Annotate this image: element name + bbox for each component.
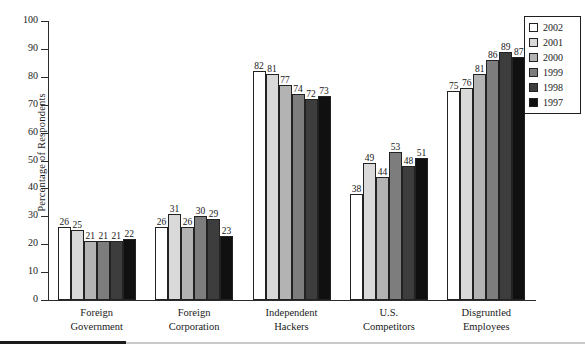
bar-2002-u-s-competitors[interactable]: 38 (350, 194, 363, 300)
bar-1998-disgruntled-employees[interactable]: 89 (499, 52, 512, 300)
bar-1999-disgruntled-employees[interactable]: 86 (486, 60, 499, 300)
bar-value-label: 87 (514, 47, 524, 57)
bar-1997-foreign-corporation[interactable]: 23 (220, 236, 233, 300)
y-tick-50: 50 (41, 161, 48, 162)
bar-1998-foreign-government[interactable]: 21 (110, 241, 123, 300)
bar-1999-foreign-government[interactable]: 21 (97, 241, 110, 300)
y-tick-label: 60 (28, 126, 38, 137)
y-tick-100: 100 (41, 21, 48, 22)
y-tick-label: 40 (28, 181, 38, 192)
legend-swatch-icon (529, 98, 538, 107)
bar-2000-foreign-government[interactable]: 21 (84, 241, 97, 300)
bar-value-label: 21 (85, 231, 95, 241)
bar-2001-u-s-competitors[interactable]: 49 (363, 163, 376, 300)
bar-2001-disgruntled-employees[interactable]: 76 (460, 88, 473, 300)
footer-rule-dark (0, 341, 126, 344)
bar-2001-independent-hackers[interactable]: 81 (266, 74, 279, 300)
category-label-line: U.S. (340, 306, 437, 320)
bar-2001-foreign-government[interactable]: 25 (71, 230, 84, 300)
bar-1998-foreign-corporation[interactable]: 29 (207, 219, 220, 300)
bar-chart: Percentage of Respondents 10090807060504… (0, 0, 585, 347)
bar-1999-foreign-corporation[interactable]: 30 (194, 216, 207, 300)
bar-2002-disgruntled-employees[interactable]: 75 (447, 91, 460, 300)
bar-value-label: 81 (267, 64, 277, 74)
legend-label: 2001 (543, 38, 563, 48)
bar-1997-independent-hackers[interactable]: 73 (318, 96, 331, 300)
bar-value-label: 38 (352, 184, 362, 194)
legend-swatch-icon (529, 53, 538, 62)
bar-1999-u-s-competitors[interactable]: 53 (389, 152, 402, 300)
legend-item-2000[interactable]: 2000 (529, 50, 576, 65)
y-tick-label: 70 (28, 98, 38, 109)
legend-label: 2000 (543, 53, 563, 63)
bar-group: 263126302923 (155, 21, 233, 300)
legend-label: 1998 (543, 83, 563, 93)
y-tick-label: 20 (28, 237, 38, 248)
bar-1997-u-s-competitors[interactable]: 51 (415, 158, 428, 300)
bar-2002-foreign-corporation[interactable]: 26 (155, 227, 168, 300)
x-axis-line (48, 300, 536, 301)
category-label-line: Competitors (340, 320, 437, 334)
bar-value-label: 29 (209, 209, 219, 219)
category-label: IndependentHackers (243, 306, 340, 333)
bar-value-label: 26 (157, 217, 167, 227)
category-label-line: Government (48, 320, 145, 334)
y-tick-70: 70 (41, 105, 48, 106)
y-tick-label: 50 (28, 154, 38, 165)
legend: 200220012000199919981997 (524, 16, 581, 114)
bar-value-label: 74 (293, 84, 303, 94)
bar-1998-u-s-competitors[interactable]: 48 (402, 166, 415, 300)
y-tick-label: 0 (33, 293, 38, 304)
y-tick-label: 100 (23, 14, 38, 25)
y-tick-20: 20 (41, 244, 48, 245)
legend-swatch-icon (529, 38, 538, 47)
bar-group: 384944534851 (350, 21, 428, 300)
legend-item-2002[interactable]: 2002 (529, 20, 576, 35)
bar-2000-foreign-corporation[interactable]: 26 (181, 227, 194, 300)
bar-value-label: 25 (72, 220, 82, 230)
bar-1997-foreign-government[interactable]: 22 (123, 239, 136, 300)
bar-2001-foreign-corporation[interactable]: 31 (168, 214, 181, 300)
legend-item-1999[interactable]: 1999 (529, 65, 576, 80)
y-tick-label: 30 (28, 209, 38, 220)
category-label: U.S.Competitors (340, 306, 437, 333)
category-label-line: Hackers (243, 320, 340, 334)
y-tick-0: 0 (41, 300, 48, 301)
bar-2000-disgruntled-employees[interactable]: 81 (473, 74, 486, 300)
y-tick-10: 10 (41, 272, 48, 273)
y-tick-40: 40 (41, 188, 48, 189)
y-tick-60: 60 (41, 133, 48, 134)
bar-value-label: 26 (183, 217, 193, 227)
bar-value-label: 89 (501, 42, 511, 52)
legend-swatch-icon (529, 23, 538, 32)
bar-value-label: 44 (378, 167, 388, 177)
legend-item-1998[interactable]: 1998 (529, 80, 576, 95)
y-tick-label: 10 (28, 265, 38, 276)
legend-label: 1999 (543, 68, 563, 78)
category-label: DisgruntledEmployees (438, 306, 535, 333)
bar-value-label: 51 (417, 148, 427, 158)
bar-value-label: 22 (124, 229, 134, 239)
bar-1999-independent-hackers[interactable]: 74 (292, 94, 305, 300)
bar-value-label: 72 (306, 89, 316, 99)
category-label-line: Foreign (145, 306, 242, 320)
category-label: ForeignGovernment (48, 306, 145, 333)
legend-swatch-icon (529, 68, 538, 77)
bar-group: 828177747273 (253, 21, 331, 300)
y-tick-label: 90 (28, 42, 38, 53)
bar-value-label: 23 (222, 226, 232, 236)
bar-2000-u-s-competitors[interactable]: 44 (376, 177, 389, 300)
bar-2000-independent-hackers[interactable]: 77 (279, 85, 292, 300)
bar-value-label: 73 (319, 86, 329, 96)
legend-item-1997[interactable]: 1997 (529, 95, 576, 110)
legend-label: 2002 (543, 23, 563, 33)
legend-item-2001[interactable]: 2001 (529, 35, 576, 50)
bar-value-label: 81 (475, 64, 485, 74)
bar-value-label: 82 (254, 61, 264, 71)
bar-2002-independent-hackers[interactable]: 82 (253, 71, 266, 300)
bar-value-label: 53 (391, 142, 401, 152)
bar-1998-independent-hackers[interactable]: 72 (305, 99, 318, 300)
plot-area: 1009080706050403020100 26252121212226312… (48, 21, 535, 300)
bar-2002-foreign-government[interactable]: 26 (58, 227, 71, 300)
x-axis-category-labels: ForeignGovernmentForeignCorporationIndep… (48, 306, 535, 346)
